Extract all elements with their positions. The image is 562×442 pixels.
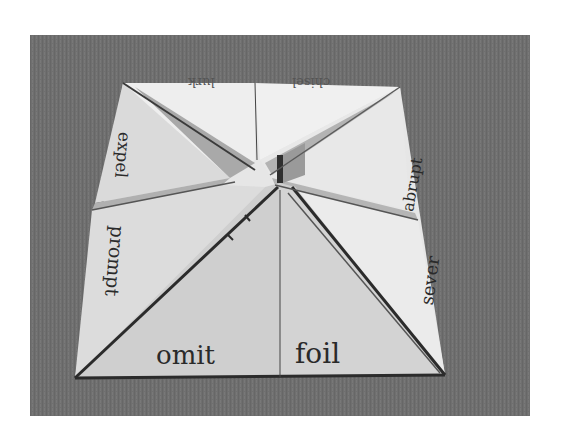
- word-left-upper: expel: [111, 131, 135, 179]
- word-top-right: chisel: [292, 75, 330, 90]
- word-top-left: lurk: [188, 75, 215, 90]
- word-bottom-left: omit: [156, 340, 215, 370]
- fortune-teller-shape: [30, 35, 530, 416]
- photo: lurk chisel expel prompt abrupt sever om…: [30, 35, 530, 416]
- word-bottom-right: foil: [295, 337, 340, 370]
